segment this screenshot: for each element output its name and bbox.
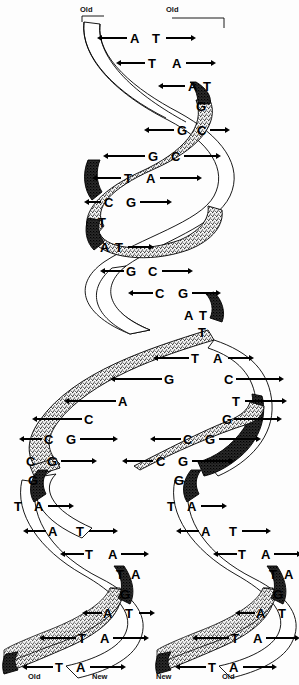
rung-arrowhead-icon bbox=[128, 290, 133, 296]
strand-age-label-top-right: Old bbox=[166, 6, 179, 14]
base-letter-g: G bbox=[174, 474, 184, 487]
base-letter-g: G bbox=[273, 588, 283, 601]
base-letter-t: T bbox=[124, 172, 132, 185]
base-pair-rung bbox=[179, 666, 206, 668]
base-letter-t: T bbox=[198, 326, 206, 339]
base-letter-g: G bbox=[120, 588, 130, 601]
base-pair-rung bbox=[184, 155, 217, 157]
rung-arrowhead-icon bbox=[116, 60, 121, 66]
base-letter-g: G bbox=[126, 196, 136, 209]
rung-arrowhead-icon bbox=[188, 268, 193, 274]
base-pair-rung bbox=[243, 666, 273, 668]
base-letter-a: A bbox=[187, 500, 196, 513]
base-pair-rung bbox=[239, 612, 255, 614]
base-pair-rung bbox=[186, 62, 212, 64]
rung-arrowhead-icon bbox=[22, 664, 27, 670]
base-pair-rung bbox=[120, 62, 145, 64]
base-letter-a: A bbox=[284, 568, 293, 581]
base-letter-a: A bbox=[188, 80, 197, 93]
rung-arrowhead-icon bbox=[213, 551, 218, 557]
rung-arrowhead-icon bbox=[295, 635, 299, 641]
base-letter-t: T bbox=[199, 309, 207, 322]
base-letter-t: T bbox=[115, 241, 123, 254]
base-pair-rung bbox=[128, 246, 150, 248]
base-letter-t: T bbox=[167, 500, 175, 513]
rung-arrowhead-icon bbox=[175, 664, 180, 670]
base-pair-rung bbox=[101, 37, 127, 39]
base-pair-rung bbox=[201, 505, 223, 507]
base-letter-t: T bbox=[148, 57, 156, 70]
base-letter-a: A bbox=[48, 525, 57, 538]
rung-arrowhead-icon bbox=[64, 398, 69, 404]
base-pair-rung bbox=[27, 530, 46, 532]
base-letter-g: G bbox=[205, 433, 215, 446]
base-letter-c: C bbox=[197, 124, 206, 137]
base-letter-t: T bbox=[231, 632, 239, 645]
rung-arrowhead-icon bbox=[216, 290, 221, 296]
rung-arrowhead-icon bbox=[103, 153, 108, 159]
base-letter-a: A bbox=[146, 172, 155, 185]
rung-arrowhead-icon bbox=[19, 436, 24, 442]
base-letter-t: T bbox=[238, 548, 246, 561]
base-letter-g: G bbox=[177, 124, 187, 137]
base-pair-rung bbox=[217, 553, 237, 555]
rung-arrowhead-icon bbox=[211, 60, 216, 66]
rung-arrowhead-icon bbox=[197, 175, 202, 181]
base-pair-rung bbox=[61, 460, 93, 462]
base-pair-rung bbox=[210, 129, 226, 131]
base-pair-rung bbox=[234, 418, 278, 420]
base-letter-c: C bbox=[155, 287, 164, 300]
base-letter-a: A bbox=[213, 352, 222, 365]
rung-arrowhead-icon bbox=[216, 153, 221, 159]
rung-arrowhead-icon bbox=[60, 551, 65, 557]
rung-arrowhead-icon bbox=[113, 528, 118, 534]
base-pair-rung bbox=[192, 460, 230, 462]
base-pair-rung bbox=[96, 177, 121, 179]
base-pair-rung bbox=[43, 637, 76, 639]
base-pair-rung bbox=[23, 438, 42, 440]
base-pair-rung bbox=[180, 530, 199, 532]
base-letter-a: A bbox=[103, 607, 112, 620]
base-letter-a: A bbox=[34, 500, 43, 513]
base-pair-rung bbox=[104, 270, 124, 272]
base-pair-rung bbox=[162, 270, 189, 272]
base-letter-t: T bbox=[203, 80, 211, 93]
base-pair-rung bbox=[26, 666, 53, 668]
rung-arrowhead-icon bbox=[92, 458, 97, 464]
base-letter-t: T bbox=[76, 525, 84, 538]
rung-arrowhead-icon bbox=[222, 503, 227, 509]
base-pair-rung bbox=[86, 612, 102, 614]
rung-arrowhead-icon bbox=[144, 127, 149, 133]
rung-arrowhead-icon bbox=[277, 416, 282, 422]
base-pair-rung bbox=[121, 553, 145, 555]
rung-arrowhead-icon bbox=[97, 35, 102, 41]
base-letter-c: C bbox=[44, 433, 53, 446]
rung-arrowhead-icon bbox=[158, 83, 163, 89]
base-letter-t: T bbox=[269, 568, 277, 581]
base-letter-c: C bbox=[183, 433, 192, 446]
dna-replication-figure: ATTAATGGCGCTACGTATGCCGATTTAGCATCGCGCGGCG… bbox=[0, 0, 299, 685]
base-letter-t: T bbox=[191, 352, 199, 365]
rung-arrowhead-icon bbox=[32, 416, 37, 422]
base-letter-a: A bbox=[261, 548, 270, 561]
base-letter-c: C bbox=[171, 150, 180, 163]
base-letter-t: T bbox=[14, 500, 22, 513]
base-pair-rung bbox=[192, 292, 217, 294]
strand-age-label-bottom-4: Old bbox=[222, 673, 235, 681]
base-pair-rung bbox=[114, 378, 162, 380]
rung-arrowhead-icon bbox=[113, 436, 118, 442]
rung-arrowhead-icon bbox=[229, 458, 234, 464]
strand-age-label-bottom-2: New bbox=[92, 673, 107, 681]
rung-arrowhead-icon bbox=[110, 376, 115, 382]
base-pair-rung bbox=[154, 438, 181, 440]
rung-arrowhead-icon bbox=[235, 610, 240, 616]
base-letter-a: A bbox=[184, 309, 193, 322]
rung-arrowhead-icon bbox=[84, 199, 89, 205]
base-pair-rung bbox=[196, 637, 229, 639]
base-letter-a: A bbox=[118, 395, 127, 408]
base-letter-g: G bbox=[148, 150, 158, 163]
rung-arrowhead-icon bbox=[92, 175, 97, 181]
base-pair-rung bbox=[228, 357, 250, 359]
base-pair-rung bbox=[48, 505, 70, 507]
base-letter-t: T bbox=[85, 548, 93, 561]
